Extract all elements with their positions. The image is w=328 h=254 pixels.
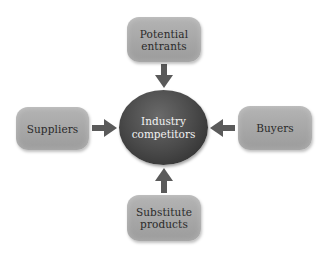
arrow-down-icon (155, 64, 173, 88)
substitute-products-line2: products (136, 218, 192, 230)
buyers-label: Buyers (256, 122, 294, 134)
suppliers-box: Suppliers (16, 107, 89, 150)
industry-competitors-ellipse: Industry competitors (119, 90, 208, 165)
arrow-left-icon (210, 119, 235, 137)
potential-entrants-box: Potential entrants (127, 17, 201, 62)
arrow-right-icon (92, 119, 117, 137)
industry-competitors-line1: Industry (141, 115, 186, 128)
industry-competitors-line2: competitors (132, 128, 196, 141)
suppliers-label: Suppliers (27, 123, 79, 135)
substitute-products-line1: Substitute (136, 206, 192, 218)
potential-entrants-line2: entrants (140, 40, 188, 52)
substitute-products-box: Substitute products (127, 195, 201, 241)
arrow-up-icon (155, 168, 173, 193)
buyers-box: Buyers (238, 106, 312, 150)
potential-entrants-line1: Potential (140, 28, 188, 40)
